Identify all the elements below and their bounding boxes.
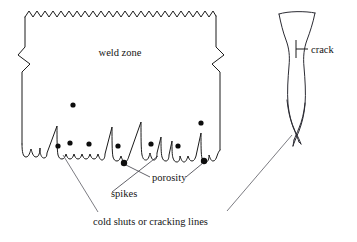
cold-shuts-label: cold shuts or cracking lines bbox=[93, 216, 208, 227]
weld-defect-diagram: weld zone bbox=[0, 0, 357, 242]
nugget-right-profile bbox=[293, 13, 315, 146]
annotation-label-group: porosity spikes cold shuts or cracking l… bbox=[93, 172, 208, 227]
crack-label: crack bbox=[311, 44, 334, 55]
porosity-dot-group bbox=[55, 102, 207, 166]
porosity-dot bbox=[86, 141, 91, 146]
right-edge-break bbox=[212, 16, 224, 150]
porosity-dot bbox=[115, 143, 120, 148]
porosity-dot bbox=[67, 140, 72, 145]
diagram-canvas: weld zone bbox=[0, 0, 357, 242]
cold-shuts-leader-line-left bbox=[63, 155, 98, 212]
cold-shuts-leader-line-right bbox=[227, 135, 292, 211]
weld-zone-block: weld zone bbox=[18, 11, 224, 162]
sawtooth-top-edge bbox=[25, 11, 216, 17]
porosity-dot bbox=[198, 120, 203, 125]
porosity-dot bbox=[55, 143, 60, 148]
porosity-dot bbox=[175, 143, 180, 148]
porosity-leader-line-secondary bbox=[186, 163, 203, 177]
porosity-dot bbox=[148, 141, 153, 146]
nugget-top-cap bbox=[279, 12, 315, 14]
porosity-leader-line bbox=[126, 165, 150, 177]
fusion-boundary-wavy-line bbox=[22, 122, 220, 162]
porosity-label: porosity bbox=[152, 172, 187, 183]
weld-nugget-shape: crack bbox=[279, 12, 334, 146]
weld-zone-label: weld zone bbox=[99, 47, 142, 58]
porosity-dot bbox=[70, 102, 75, 107]
nugget-left-profile bbox=[279, 14, 301, 144]
porosity-dot bbox=[201, 158, 207, 164]
left-edge-break bbox=[18, 17, 30, 144]
spikes-label: spikes bbox=[111, 188, 137, 199]
